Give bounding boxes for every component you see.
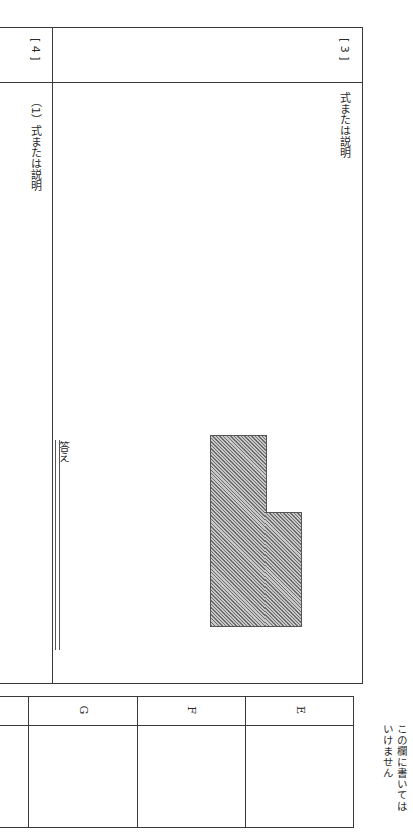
section-divider (52, 27, 53, 684)
answer-line-outer (55, 440, 56, 650)
section4-subquestion: （1）式または説明 (30, 96, 41, 191)
score-cell-e[interactable] (246, 726, 353, 827)
column-header-e: E (293, 704, 307, 716)
table-top-border (0, 696, 354, 697)
figure-upper-part (210, 435, 267, 627)
section4-number: [ 4 ] (30, 38, 41, 61)
frame-right-border (362, 27, 363, 684)
score-cell-f[interactable] (138, 726, 245, 827)
column-header-g: G (76, 704, 90, 716)
table-col-line-4 (353, 696, 354, 828)
section3-label: 式または説明 (339, 92, 350, 158)
figure-lower-part (265, 512, 302, 627)
score-cell-g[interactable] (29, 726, 137, 827)
header-row-divider (0, 82, 362, 83)
frame-top-border (0, 27, 362, 28)
column-header-f: F (184, 704, 198, 716)
frame-bottom-border (0, 683, 362, 684)
margin-note-line1: この欄に書いては (396, 724, 407, 812)
margin-note-line2: いけません (382, 724, 393, 779)
table-bottom-border (0, 827, 354, 828)
section3-number: [ 3 ] (339, 38, 350, 61)
answer-line-inner[interactable] (59, 440, 60, 650)
